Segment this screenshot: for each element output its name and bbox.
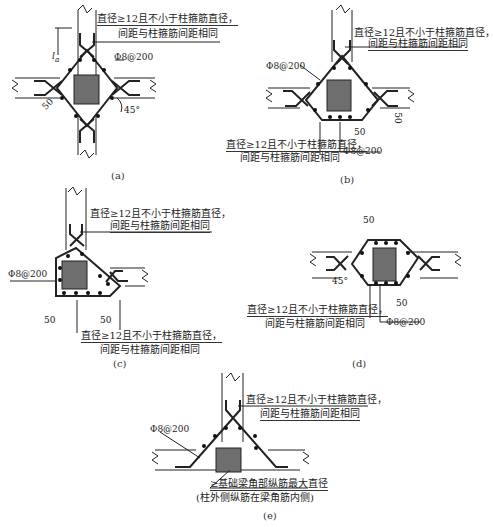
- note-c-bottom-line1: 直径≥12且不小于柱箍筋直径，: [81, 330, 222, 343]
- note-e-bottom-line2: (柱外侧纵筋在梁角筋内侧): [196, 492, 314, 504]
- stirrup-e: Φ8@200: [150, 423, 189, 435]
- note-c-bottom-line2: 间距与柱箍筋间距相同: [100, 344, 200, 356]
- stirrup-c: Φ8@200: [8, 268, 47, 280]
- caption-a: (a): [111, 170, 125, 181]
- note-d-line1: 直径≥12且不小于柱箍筋直径，: [247, 304, 388, 317]
- note-a-line2: 间距与柱箍筋间距相同: [118, 28, 218, 40]
- note-e-line1: 直径≥12且不小于柱箍筋直径，: [246, 394, 387, 406]
- la-a: la: [52, 50, 59, 66]
- note-d-line2: 间距与柱箍筋间距相同: [265, 318, 365, 330]
- note-c-top-line1: 直径≥12且不小于柱箍筋直径，: [90, 208, 231, 220]
- caption-d: (d): [352, 358, 366, 369]
- dim-50-d-top: 50: [363, 214, 374, 226]
- note-b-top-line2: 间距与柱箍筋间距相同: [368, 38, 468, 51]
- note-a-line1: 直径≥12且不小于柱箍筋直径，: [97, 13, 238, 26]
- note-b-bottom-line2: 间距与柱箍筋间距相同: [240, 152, 340, 164]
- angle-45-a: 45°: [124, 104, 140, 116]
- stirrup-b-left: Φ8@200: [266, 60, 305, 72]
- dim-50-b-2: 50: [392, 112, 404, 123]
- note-e-bottom-line1: ≥基础梁角部纵筋最大直径: [210, 478, 328, 491]
- note-c-top-line2: 间距与柱箍筋间距相同: [110, 220, 210, 233]
- dim-50-b-1: 50: [354, 126, 365, 138]
- caption-c: (c): [113, 358, 126, 369]
- dim-50-c-1: 50: [44, 314, 55, 326]
- stirrup-a: Φ8@200: [114, 51, 153, 63]
- stirrup-d: Φ8@200: [386, 316, 425, 328]
- note-e-line2: 间距与柱箍筋间距相同: [260, 408, 360, 421]
- stirrup-b-bottom: Φ8@200: [343, 145, 382, 157]
- dim-50-d-bottom: 50: [396, 297, 407, 309]
- caption-b: (b): [340, 174, 354, 185]
- caption-e: (e): [263, 510, 277, 521]
- angle-45-d: 45°: [332, 275, 348, 287]
- dim-50-c-2: 50: [100, 314, 111, 326]
